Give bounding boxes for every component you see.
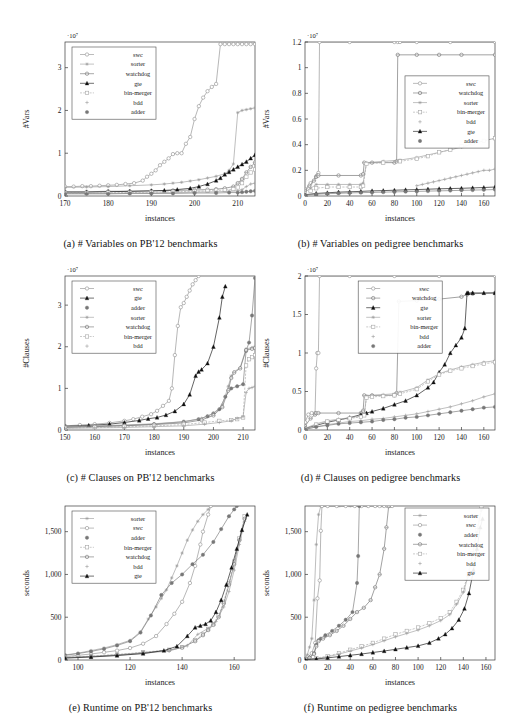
- series-adder: [303, 405, 496, 431]
- svg-text:#Vars: #Vars: [22, 110, 31, 129]
- svg-text:0.2: 0.2: [292, 166, 302, 175]
- svg-text:80: 80: [391, 433, 399, 442]
- svg-text:adder: adder: [464, 531, 479, 538]
- plot-area-e: 10012014016005001,0001,500instancessecon…: [18, 492, 263, 707]
- plot-area-d: 02040608010012014016000.511.52·10⁷instan…: [258, 262, 503, 477]
- svg-text:adder: adder: [131, 108, 146, 115]
- svg-text:0: 0: [58, 192, 62, 201]
- svg-text:2: 2: [298, 272, 302, 281]
- svg-text:swc: swc: [419, 285, 429, 292]
- svg-text:1,500: 1,500: [285, 527, 302, 536]
- svg-text:0: 0: [298, 656, 302, 665]
- svg-text:gte: gte: [134, 294, 142, 301]
- svg-text:100: 100: [411, 199, 422, 208]
- svg-text:sorter: sorter: [464, 512, 479, 519]
- svg-text:20: 20: [324, 199, 332, 208]
- svg-text:100: 100: [72, 663, 83, 672]
- subplot-b: 02040608010012014016000.20.40.60.811.2·1…: [258, 28, 503, 266]
- svg-text:bdd: bdd: [466, 118, 476, 125]
- svg-text:140: 140: [456, 433, 467, 442]
- svg-text:instances: instances: [145, 448, 175, 457]
- svg-text:180: 180: [103, 199, 114, 208]
- svg-text:bin-merger: bin-merger: [410, 323, 439, 330]
- svg-text:bdd: bdd: [133, 342, 143, 349]
- svg-text:bdd: bdd: [419, 333, 429, 340]
- legend-e: sorterswcadderbin-mergerwatchdogbddgte: [72, 511, 156, 583]
- svg-text:gte: gte: [420, 304, 428, 311]
- svg-text:160: 160: [478, 199, 489, 208]
- svg-text:·10⁷: ·10⁷: [307, 32, 319, 39]
- svg-text:bin-merger: bin-merger: [457, 550, 486, 557]
- svg-text:0.5: 0.5: [292, 387, 302, 396]
- svg-text:200: 200: [189, 199, 200, 208]
- svg-text:adder: adder: [131, 534, 146, 541]
- series-bdd: [415, 167, 497, 187]
- svg-text:140: 140: [458, 663, 469, 672]
- plot-area-f: 02040608010012014016005001,0001,500insta…: [258, 492, 503, 707]
- svg-text:80: 80: [391, 199, 399, 208]
- svg-text:instances: instances: [385, 214, 415, 223]
- series-gte: [303, 185, 497, 197]
- plot-area-b: 02040608010012014016000.20.40.60.811.2·1…: [258, 28, 503, 243]
- svg-text:60: 60: [369, 663, 377, 672]
- svg-text:seconds: seconds: [262, 570, 271, 596]
- svg-text:0: 0: [303, 663, 307, 672]
- svg-text:160: 160: [480, 663, 491, 672]
- svg-text:bdd: bdd: [133, 99, 143, 106]
- svg-text:80: 80: [392, 663, 400, 672]
- subplot-a: 1701801902002100123·10⁷instances#Varsswc…: [18, 28, 263, 266]
- subplot-caption-e: (e) Runtime on PB'12 benchmarks: [18, 702, 263, 713]
- svg-text:1,000: 1,000: [285, 570, 302, 579]
- svg-text:bin-merger: bin-merger: [124, 544, 153, 551]
- svg-text:100: 100: [413, 663, 424, 672]
- svg-text:swc: swc: [133, 285, 143, 292]
- svg-text:40: 40: [347, 663, 355, 672]
- svg-text:200: 200: [208, 433, 219, 442]
- svg-text:160: 160: [89, 433, 100, 442]
- plot-area-c: 1501601701801902002100123·10⁷instances#C…: [18, 262, 263, 477]
- svg-text:1.2: 1.2: [292, 38, 302, 47]
- svg-text:gte: gte: [134, 572, 142, 579]
- svg-text:0: 0: [303, 433, 307, 442]
- svg-text:0: 0: [58, 426, 62, 435]
- svg-text:120: 120: [434, 199, 445, 208]
- svg-text:gte: gte: [134, 80, 142, 87]
- svg-text:40: 40: [346, 433, 354, 442]
- svg-text:1: 1: [58, 384, 62, 393]
- svg-text:1,500: 1,500: [45, 527, 62, 536]
- svg-text:500: 500: [50, 613, 61, 622]
- series-sorter: [63, 345, 256, 428]
- svg-text:140: 140: [456, 199, 467, 208]
- svg-text:0: 0: [298, 426, 302, 435]
- legend-a: swcsorterwatchdoggtebin-mergerbddadder: [72, 47, 156, 119]
- svg-text:60: 60: [368, 433, 376, 442]
- svg-text:120: 120: [434, 433, 445, 442]
- subplot-f: 02040608010012014016005001,0001,500insta…: [258, 492, 503, 723]
- subplot-c: 1501601701801902002100123·10⁷instances#C…: [18, 262, 263, 500]
- svg-text:·10⁷: ·10⁷: [67, 266, 79, 273]
- svg-text:instances: instances: [145, 214, 175, 223]
- svg-text:1: 1: [298, 63, 302, 72]
- svg-text:140: 140: [177, 663, 188, 672]
- svg-text:100: 100: [411, 433, 422, 442]
- legend-f: sorterswcadderwatchdogbin-mergerbddgte: [405, 508, 489, 580]
- svg-text:1.5: 1.5: [292, 310, 302, 319]
- series-adder: [63, 189, 256, 195]
- subplot-caption-f: (f) Runtime on pedigree benchmarks: [258, 702, 503, 713]
- svg-text:bin-merger: bin-merger: [124, 333, 153, 340]
- svg-text:190: 190: [146, 199, 157, 208]
- svg-text:20: 20: [324, 433, 332, 442]
- svg-text:160: 160: [478, 433, 489, 442]
- svg-text:bdd: bdd: [133, 563, 143, 570]
- svg-text:bin-merger: bin-merger: [457, 108, 486, 115]
- subplot-caption-a: (a) # Variables on PB'12 benchmarks: [18, 238, 263, 249]
- svg-text:500: 500: [290, 613, 301, 622]
- svg-text:gte: gte: [467, 569, 475, 576]
- svg-text:120: 120: [435, 663, 446, 672]
- svg-text:1,000: 1,000: [45, 570, 62, 579]
- plot-area-a: 1701801902002100123·10⁷instances#Varsswc…: [18, 28, 263, 243]
- svg-text:gte: gte: [467, 128, 475, 135]
- svg-text:watchdog: watchdog: [459, 541, 484, 548]
- svg-text:190: 190: [178, 433, 189, 442]
- svg-text:adder: adder: [131, 304, 146, 311]
